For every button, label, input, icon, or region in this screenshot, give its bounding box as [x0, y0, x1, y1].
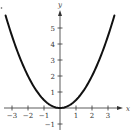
x-tick-label: −1	[39, 112, 49, 120]
y-tick-label: 2	[51, 73, 55, 81]
x-axis-arrow-icon	[117, 106, 123, 110]
axis-ticks: −3−2−1123−112345	[7, 25, 110, 129]
y-tick-label: 4	[51, 41, 56, 49]
x-tick-label: −3	[7, 112, 17, 120]
stray-marker	[1, 7, 3, 9]
y-tick-label: 3	[51, 57, 55, 65]
y-tick-label: 1	[51, 89, 55, 97]
y-axis-label: y	[57, 1, 63, 9]
x-tick-label: 3	[106, 112, 110, 120]
y-tick-label: −1	[45, 121, 55, 129]
x-tick-label: −2	[23, 112, 33, 120]
y-tick-label: 5	[51, 25, 55, 33]
x-tick-label: 1	[74, 112, 78, 120]
y-axis-arrow-icon	[58, 10, 62, 16]
x-axis-label: x	[126, 105, 130, 113]
x-tick-label: 2	[90, 112, 94, 120]
parabola-chart: −3−2−1123−112345 x y	[0, 0, 131, 132]
